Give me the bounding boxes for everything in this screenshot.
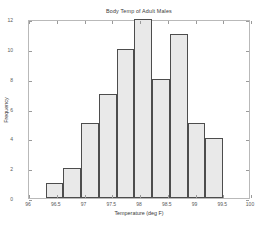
x-axis-tick-label: 97 xyxy=(81,201,87,207)
x-axis-tick-label: 96 xyxy=(25,201,31,207)
y-axis-tick-mark xyxy=(246,21,249,22)
x-axis-tick-mark xyxy=(168,195,169,198)
histogram-bar xyxy=(152,79,170,198)
y-axis-tick-label: 10 xyxy=(0,47,13,53)
x-axis-tick-label: 99.5 xyxy=(217,201,227,207)
y-axis-tick-mark xyxy=(29,81,32,82)
histogram-bar xyxy=(205,138,223,198)
histogram-bar xyxy=(99,94,117,198)
x-axis-tick-label: 96.5 xyxy=(51,201,61,207)
x-axis-tick-mark xyxy=(223,195,224,198)
y-axis-label: Frequency xyxy=(3,97,9,122)
x-axis-tick-mark xyxy=(196,195,197,198)
x-axis-tick-mark xyxy=(223,21,224,24)
histogram-bar xyxy=(81,123,99,198)
x-axis-tick-mark xyxy=(251,195,252,198)
y-axis-tick-mark xyxy=(246,111,249,112)
x-axis-tick-label: 98 xyxy=(136,201,142,207)
y-axis-tick-mark xyxy=(246,170,249,171)
y-axis-tick-mark xyxy=(29,111,32,112)
histogram-bar xyxy=(134,19,152,198)
x-axis-tick-mark xyxy=(196,21,197,24)
y-axis-tick-label: 4 xyxy=(0,136,13,142)
histogram-bar xyxy=(117,49,135,198)
plot-area xyxy=(29,21,249,198)
chart-title: Body Temp of Adult Males xyxy=(28,8,250,14)
x-axis-tick-mark xyxy=(57,195,58,198)
histogram-bar xyxy=(170,34,188,198)
y-axis-tick-label: 0 xyxy=(0,196,13,202)
histogram-bar xyxy=(188,123,206,198)
x-axis-tick-mark xyxy=(140,195,141,198)
y-axis-tick-label: 12 xyxy=(0,17,13,23)
x-axis-tick-mark xyxy=(29,195,30,198)
x-axis-tick-mark xyxy=(57,21,58,24)
histogram-bar xyxy=(63,168,81,198)
x-axis-label: Temperature (deg F) xyxy=(28,210,250,216)
x-axis-tick-label: 100 xyxy=(246,201,254,207)
histogram-bar xyxy=(46,183,64,198)
x-axis-tick-mark xyxy=(85,21,86,24)
x-axis-tick-label: 97.5 xyxy=(106,201,116,207)
x-axis-tick-mark xyxy=(85,195,86,198)
y-axis-tick-mark xyxy=(246,81,249,82)
histogram-figure: Body Temp of Adult Males 0246810129696.5… xyxy=(0,0,265,231)
y-axis-tick-mark xyxy=(29,51,32,52)
y-axis-tick-mark xyxy=(246,140,249,141)
x-axis-tick-mark xyxy=(112,21,113,24)
x-axis-tick-mark xyxy=(29,21,30,24)
x-axis-tick-label: 98.5 xyxy=(162,201,172,207)
y-axis-tick-label: 8 xyxy=(0,77,13,83)
x-axis-tick-mark xyxy=(140,21,141,24)
y-axis-tick-label: 2 xyxy=(0,166,13,172)
y-axis-tick-mark xyxy=(29,140,32,141)
x-axis-tick-mark xyxy=(251,21,252,24)
x-axis-tick-label: 99 xyxy=(192,201,198,207)
y-axis-tick-mark xyxy=(29,170,32,171)
plot-frame xyxy=(28,20,250,199)
x-axis-tick-mark xyxy=(168,21,169,24)
y-axis-tick-mark xyxy=(246,51,249,52)
x-axis-tick-mark xyxy=(112,195,113,198)
